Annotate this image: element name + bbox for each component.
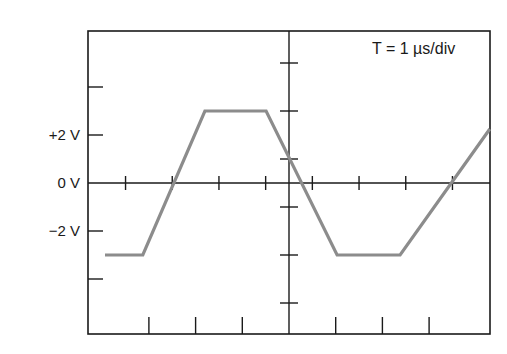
y-label-zero: 0 V: [10, 175, 80, 191]
y-label-plus2: +2 V: [10, 127, 80, 143]
timebase-label: T = 1 µs/div: [372, 40, 455, 58]
y-label-minus2: −2 V: [10, 223, 80, 239]
